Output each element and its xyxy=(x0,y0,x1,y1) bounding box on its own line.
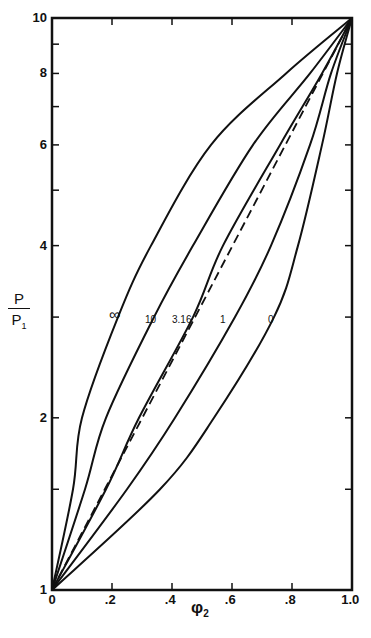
y-tick-label: 8 xyxy=(40,66,47,79)
curve-label: ∞ xyxy=(109,307,120,323)
curves xyxy=(52,18,352,590)
curve-label: 1 xyxy=(220,315,226,325)
x-tick-label: .6 xyxy=(225,593,236,606)
curve-ideal-dashed- xyxy=(52,18,352,590)
curve-label: 3.16 xyxy=(172,315,191,325)
y-tick-label: 1 xyxy=(40,583,47,596)
x-axis-label: φ2 xyxy=(191,598,209,619)
y-tick-label: 10 xyxy=(33,11,47,24)
curve-label: 0 xyxy=(268,315,274,325)
y-axis-label-den-text: P xyxy=(11,311,21,328)
y-axis-label: P P1 xyxy=(8,290,30,331)
y-tick-label: 4 xyxy=(40,239,47,252)
x-tick-label: 1.0 xyxy=(341,593,359,606)
x-tick-label: .2 xyxy=(105,593,116,606)
curve-label: 10 xyxy=(145,315,156,325)
x-axis-label-text: φ xyxy=(191,598,203,617)
x-tick-label: .4 xyxy=(165,593,176,606)
y-tick-label: 6 xyxy=(40,138,47,151)
x-tick-label: 0 xyxy=(48,593,55,606)
x-axis-label-sub: 2 xyxy=(203,608,209,619)
y-axis-label-numerator: P xyxy=(8,290,30,309)
y-axis-label-denominator: P1 xyxy=(8,309,30,331)
x-tick-label: .8 xyxy=(285,593,296,606)
y-axis-label-den-sub: 1 xyxy=(22,321,27,331)
y-tick-label: 2 xyxy=(40,411,47,424)
